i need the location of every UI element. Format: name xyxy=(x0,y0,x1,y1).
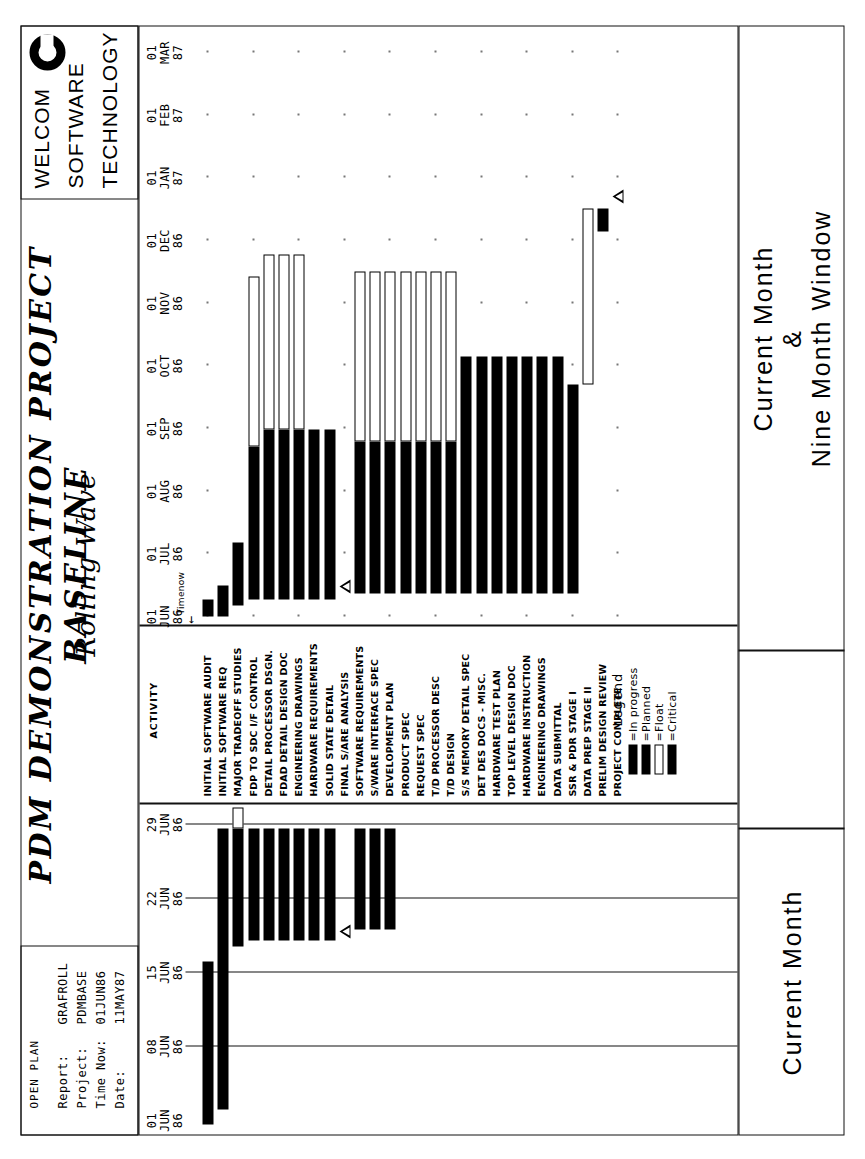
bar-in-progress xyxy=(430,441,441,594)
time-now-label: Time Now: xyxy=(93,1038,107,1108)
footer-divider-2 xyxy=(738,649,844,651)
grid-dot xyxy=(434,175,436,177)
grid-dot xyxy=(480,175,482,177)
grid-dot xyxy=(616,489,618,491)
grid-dot xyxy=(343,113,345,115)
activity-label: S/S MEMORY DETAIL SPEC xyxy=(459,653,470,796)
activity-label: INITIAL SOFTWARE AUDIT xyxy=(201,655,212,796)
legend-title: Legend xyxy=(609,624,624,774)
right-date-tick: 01MAR87 xyxy=(145,32,184,72)
legend-swatch-open xyxy=(654,744,663,774)
grid-dot xyxy=(343,50,345,52)
project-label: Project: xyxy=(74,1046,88,1108)
grid-dot xyxy=(343,175,345,177)
grid-dot xyxy=(571,614,573,616)
bar-in-progress xyxy=(248,446,259,599)
bar-in-progress xyxy=(324,429,335,599)
grid-dot xyxy=(206,238,208,240)
grid-dot xyxy=(297,113,299,115)
document-page: OPEN PLAN Report: GRAFROLL Project: PDMB… xyxy=(0,0,865,1159)
bar-in-progress xyxy=(308,828,319,940)
bar-in-progress xyxy=(293,429,304,599)
right-date-tick: 01FEB87 xyxy=(145,95,184,135)
grid-dot xyxy=(571,363,573,365)
bar-in-progress xyxy=(521,356,532,594)
activity-label: REQUEST SPEC xyxy=(414,714,425,796)
grid-dot xyxy=(388,50,390,52)
logo-line-2: SOFTWARE xyxy=(63,62,87,188)
right-date-tick: 01NOV86 xyxy=(145,283,184,323)
activity-column-header: ACTIVITY xyxy=(147,681,158,738)
grid-dot xyxy=(525,614,527,616)
footer-left-cell: Current Month xyxy=(738,829,844,1135)
left-date-tick: 15JUN86 xyxy=(145,952,184,992)
grid-dot xyxy=(571,113,573,115)
activity-label: DET DES DOCS - MISC. xyxy=(475,672,486,796)
bar-in-progress xyxy=(384,828,395,929)
bar-in-progress xyxy=(293,828,304,940)
grid-dot xyxy=(616,426,618,428)
left-gridline xyxy=(185,1045,737,1046)
bar-in-progress xyxy=(460,356,471,594)
grid-dot xyxy=(388,175,390,177)
bar-in-progress xyxy=(217,828,228,1109)
activity-label: DATA PREP STAGE II xyxy=(581,686,592,796)
grid-dot xyxy=(525,301,527,303)
grid-dot xyxy=(434,614,436,616)
grid-dot xyxy=(525,113,527,115)
bar-float xyxy=(430,271,441,441)
report-info-box: OPEN PLAN Report: GRAFROLL Project: PDMB… xyxy=(20,945,138,1135)
bar-float xyxy=(263,254,274,429)
activity-label: SOFTWARE REQUIREMENTS xyxy=(353,645,364,796)
grid-dot xyxy=(571,50,573,52)
grid-dot xyxy=(297,50,299,52)
activity-label: ENGINEERING DRAWINGS xyxy=(535,657,546,796)
activity-label: SSR & PDR STAGE I xyxy=(566,691,577,796)
activity-label: TOP LEVEL DESIGN DOC xyxy=(505,665,516,796)
bar-in-progress xyxy=(536,356,547,594)
bar-in-progress xyxy=(217,585,228,616)
activity-label: S/WARE INTERFACE SPEC xyxy=(368,658,379,796)
bar-float xyxy=(369,271,380,441)
grid-dot xyxy=(525,238,527,240)
grid-dot xyxy=(252,238,254,240)
bar-in-progress xyxy=(415,441,426,594)
legend-swatch-solid xyxy=(628,744,637,774)
activity-label: FDP TO SDC I/F CONTROL xyxy=(247,656,258,796)
grid-dot xyxy=(206,175,208,177)
grid-dot xyxy=(343,301,345,303)
time-now-value: 01JUN86 xyxy=(93,970,107,1024)
grid-dot xyxy=(525,175,527,177)
grid-dot xyxy=(206,551,208,553)
grid-dot xyxy=(206,426,208,428)
grid-dot xyxy=(616,50,618,52)
grid-dot xyxy=(616,614,618,616)
bar-float xyxy=(248,276,259,446)
bar-in-progress xyxy=(445,441,456,594)
logo-line-1: WELCOM xyxy=(29,88,53,189)
grid-dot xyxy=(571,175,573,177)
bar-in-progress xyxy=(597,209,608,232)
activity-label: ENGINEERING DRAWINGS xyxy=(292,657,303,796)
bar-in-progress xyxy=(567,384,578,593)
grid-dot xyxy=(480,113,482,115)
open-plan-label: OPEN PLAN xyxy=(27,1039,40,1108)
footer-divider-1 xyxy=(738,827,844,829)
legend: Legend =In progress=Planned=Float=Critic… xyxy=(609,624,678,774)
grid-dot xyxy=(343,489,345,491)
bar-in-progress xyxy=(324,828,335,940)
grid-dot xyxy=(297,238,299,240)
legend-swatch-solid xyxy=(641,744,650,774)
right-date-tick: 01AUG86 xyxy=(145,471,184,511)
activity-label: T/D PROCESSOR DESC xyxy=(429,675,440,796)
activity-label: HARDWARE INSTRUCTION xyxy=(520,654,531,796)
footer-right-line3: Nine Month Window xyxy=(806,209,835,467)
left-date-tick: 29JUN86 xyxy=(145,804,184,844)
grid-dot xyxy=(297,614,299,616)
grid-dot xyxy=(571,301,573,303)
bar-in-progress xyxy=(369,441,380,594)
grid-dot xyxy=(252,113,254,115)
activity-label: DATA SUBMITTAL xyxy=(551,702,562,796)
date-value: 11MAY87 xyxy=(112,970,126,1024)
bar-float xyxy=(400,271,411,441)
